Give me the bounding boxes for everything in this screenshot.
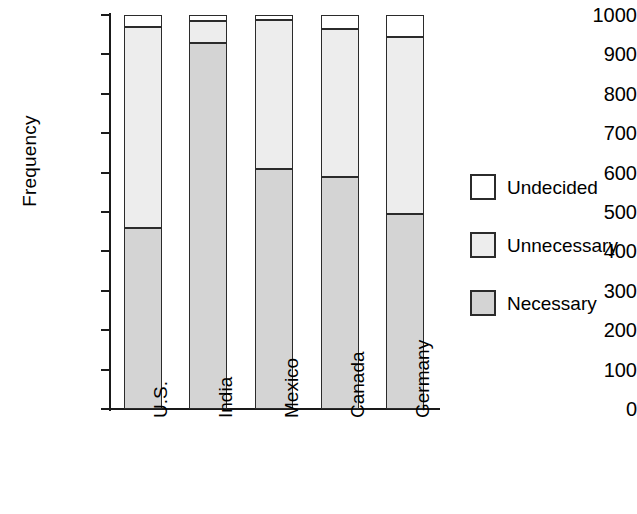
legend-item[interactable]: Undecided bbox=[470, 158, 635, 216]
y-tick-label: 100 bbox=[541, 360, 637, 380]
y-tick-mark bbox=[101, 132, 110, 134]
y-tick-mark bbox=[101, 93, 110, 95]
x-tick-label: Germany bbox=[413, 298, 432, 418]
legend-item[interactable]: Necessary bbox=[470, 274, 635, 332]
y-tick-mark bbox=[101, 53, 110, 55]
legend-swatch-icon bbox=[470, 174, 496, 200]
bar-segment-unnecessary[interactable] bbox=[321, 29, 359, 177]
y-tick-mark bbox=[101, 172, 110, 174]
y-axis-title: Frequency bbox=[19, 71, 41, 251]
bar-segment-undecided[interactable] bbox=[321, 15, 359, 29]
y-tick-mark bbox=[101, 329, 110, 331]
y-tick-label: 900 bbox=[541, 44, 637, 64]
legend-item-label: Undecided bbox=[507, 178, 598, 197]
bar-segment-undecided[interactable] bbox=[124, 15, 162, 27]
y-tick-label: 700 bbox=[541, 123, 637, 143]
y-tick-label: 0 bbox=[541, 399, 637, 419]
stacked-bar-chart: Frequency 010020030040050060070080090010… bbox=[0, 0, 637, 514]
legend-item-label: Unnecessary bbox=[507, 236, 618, 255]
chart-legend: UndecidedUnnecessaryNecessary bbox=[470, 158, 635, 332]
bar-segment-undecided[interactable] bbox=[386, 15, 424, 37]
y-tick-mark bbox=[101, 408, 110, 410]
x-tick-label: U.S. bbox=[151, 298, 170, 418]
bar-segment-unnecessary[interactable] bbox=[189, 21, 227, 43]
y-tick-label: 1000 bbox=[541, 5, 637, 25]
y-tick-mark bbox=[101, 211, 110, 213]
legend-item[interactable]: Unnecessary bbox=[470, 216, 635, 274]
legend-item-label: Necessary bbox=[507, 294, 597, 313]
bar-segment-undecided[interactable] bbox=[189, 15, 227, 21]
y-tick-mark bbox=[101, 250, 110, 252]
bar-segment-undecided[interactable] bbox=[255, 15, 293, 20]
x-tick-label: Mexico bbox=[282, 298, 301, 418]
x-tick-label: India bbox=[216, 298, 235, 418]
y-tick-mark bbox=[101, 290, 110, 292]
bar-segment-unnecessary[interactable] bbox=[386, 37, 424, 214]
legend-swatch-icon bbox=[470, 290, 496, 316]
x-tick-label: Canada bbox=[348, 298, 367, 418]
legend-swatch-icon bbox=[470, 232, 496, 258]
y-tick-label: 800 bbox=[541, 84, 637, 104]
y-tick-mark bbox=[101, 14, 110, 16]
y-tick-mark bbox=[101, 369, 110, 371]
bar-segment-unnecessary[interactable] bbox=[255, 20, 293, 169]
bar-segment-unnecessary[interactable] bbox=[124, 27, 162, 228]
